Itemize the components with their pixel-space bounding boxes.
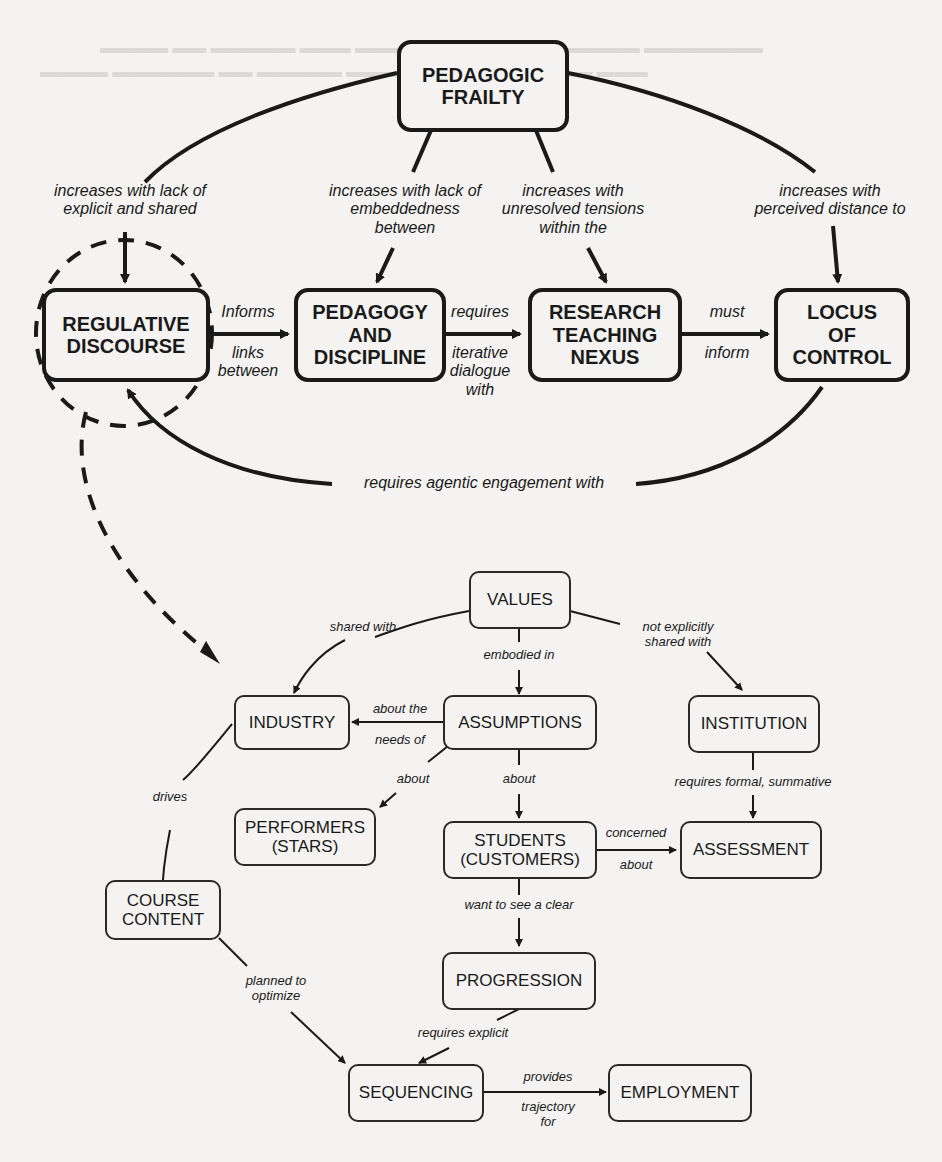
- node-performers[interactable]: PERFORMERS (STARS): [234, 808, 376, 866]
- edge-label-requires-explicit: requires explicit: [403, 1026, 523, 1041]
- edge-label-about-the: about the: [360, 702, 440, 717]
- node-sequencing[interactable]: SEQUENCING: [348, 1064, 484, 1122]
- node-course-content[interactable]: COURSE CONTENT: [105, 880, 221, 940]
- node-label: RESEARCH TEACHING NEXUS: [549, 301, 661, 368]
- edge-label-not-explicitly-shared: not explicitly shared with: [628, 620, 728, 650]
- edge-label-requires-formal: requires formal, summative: [668, 775, 838, 790]
- node-label: COURSE CONTENT: [122, 891, 204, 929]
- node-label: LOCUS OF CONTROL: [793, 301, 892, 368]
- node-label: PERFORMERS (STARS): [245, 818, 365, 856]
- node-pedagogy-and-discipline[interactable]: PEDAGOGY AND DISCIPLINE: [294, 288, 446, 382]
- node-students[interactable]: STUDENTS (CUSTOMERS): [443, 821, 597, 879]
- node-values[interactable]: VALUES: [469, 571, 571, 629]
- node-regulative-discourse[interactable]: REGULATIVE DISCOURSE: [42, 288, 210, 382]
- edge-label-shared-with: shared with: [318, 620, 408, 635]
- edge-label-planned-to-optimize: planned to optimize: [226, 974, 326, 1004]
- node-employment[interactable]: EMPLOYMENT: [608, 1064, 752, 1122]
- concept-map: ▬▬▬▬ ▬▬ ▬▬▬▬▬ ▬▬▬ ▬▬▬▬ ▬▬▬▬ ▬▬ ▬▬▬▬▬▬ ▬▬…: [0, 0, 942, 1162]
- node-label: INSTITUTION: [701, 714, 808, 733]
- edge-label-must: must: [690, 303, 764, 321]
- node-locus-of-control[interactable]: LOCUS OF CONTROL: [774, 288, 910, 382]
- edge-label-needs-of: needs of: [360, 733, 440, 748]
- node-label: VALUES: [487, 590, 553, 609]
- node-label: REGULATIVE DISCOURSE: [62, 313, 189, 358]
- node-progression[interactable]: PROGRESSION: [442, 952, 596, 1010]
- node-label: PEDAGOGIC FRAILTY: [422, 64, 544, 109]
- callout-arrowhead: [200, 641, 220, 664]
- node-label: PEDAGOGY AND DISCIPLINE: [312, 301, 428, 368]
- edge-label-provides: provides: [508, 1070, 588, 1085]
- edge-label-about-students: about: [494, 772, 544, 787]
- node-label: ASSESSMENT: [693, 840, 809, 859]
- node-institution[interactable]: INSTITUTION: [688, 695, 820, 753]
- edge-label-agentic-engagement: requires agentic engagement with: [332, 474, 636, 492]
- node-pedagogic-frailty[interactable]: PEDAGOGIC FRAILTY: [397, 40, 569, 132]
- edge-label-embodied-in: embodied in: [474, 648, 564, 663]
- edge-label-informs: Informs: [216, 303, 280, 321]
- edge-label-trajectory-for: trajectory for: [508, 1100, 588, 1130]
- edge-label-inform: inform: [690, 344, 764, 362]
- edge-label-drives: drives: [140, 790, 200, 805]
- edge-label-frailty-pedagogy: increases with lack of embeddedness betw…: [300, 182, 510, 237]
- edge-label-requires: requires: [440, 303, 520, 321]
- edge-label-frailty-regulative: increases with lack of explicit and shar…: [30, 182, 230, 219]
- edge-label-concerned: concerned: [598, 826, 674, 841]
- edge-label-want-to-see: want to see a clear: [449, 898, 589, 913]
- node-label: SEQUENCING: [359, 1083, 473, 1102]
- node-assumptions[interactable]: ASSUMPTIONS: [443, 695, 597, 750]
- node-label: EMPLOYMENT: [620, 1083, 739, 1102]
- edge-label-frailty-nexus: increases with unresolved tensions withi…: [498, 182, 648, 237]
- edge-label-links-between: links between: [216, 344, 280, 381]
- node-research-teaching-nexus[interactable]: RESEARCH TEACHING NEXUS: [528, 288, 682, 382]
- node-label: PROGRESSION: [456, 971, 583, 990]
- edge-label-frailty-locus: increases with perceived distance to: [750, 182, 910, 219]
- node-industry[interactable]: INDUSTRY: [234, 695, 350, 750]
- edge-label-about-assessment: about: [598, 858, 674, 873]
- edge-label-about-performers: about: [383, 772, 443, 787]
- node-assessment[interactable]: ASSESSMENT: [680, 821, 822, 879]
- node-label: INDUSTRY: [249, 713, 336, 732]
- node-label: STUDENTS (CUSTOMERS): [460, 831, 580, 869]
- edge-label-iterative-dialogue: iterative dialogue with: [440, 344, 520, 399]
- upper-edges: [125, 73, 838, 484]
- node-label: ASSUMPTIONS: [458, 713, 582, 732]
